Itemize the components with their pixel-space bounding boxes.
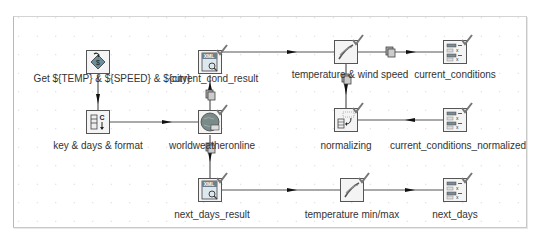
step-label: temperature min/max xyxy=(305,209,399,221)
validated-check-icon xyxy=(461,102,473,114)
step-label: key & days & format xyxy=(53,140,142,152)
step-label: current_conditions_normalized xyxy=(390,140,526,152)
svg-text:XML: XML xyxy=(204,53,215,59)
step-label: normalizing xyxy=(320,140,371,152)
step-label: next_days_result xyxy=(174,209,250,221)
svg-text:x: x xyxy=(456,47,459,53)
validated-check-icon xyxy=(216,172,228,184)
step-label: Get ${TEMP} & ${SPEED} & ${city} xyxy=(34,73,191,85)
svg-text:x: x xyxy=(456,194,459,200)
validated-check-icon xyxy=(216,104,228,116)
javascript-icon: $ xyxy=(87,51,109,73)
step-label: temperature & wind speed xyxy=(292,69,409,81)
step-label: worldweatheronline xyxy=(169,140,255,152)
generate-rows-icon: C xyxy=(87,111,109,133)
validated-check-icon xyxy=(461,34,473,46)
validated-check-icon xyxy=(358,172,370,184)
svg-text:x: x xyxy=(456,185,459,191)
svg-text:x: x xyxy=(456,124,459,130)
step-label: current_conditions xyxy=(414,69,496,81)
validated-check-icon xyxy=(352,102,364,114)
step-label: next_days xyxy=(432,209,478,221)
svg-text:C: C xyxy=(99,114,104,121)
validated-check-icon xyxy=(216,44,228,56)
svg-text:XML: XML xyxy=(204,181,215,187)
step-get-vars[interactable]: $ xyxy=(86,50,110,74)
svg-text:x: x xyxy=(456,115,459,121)
validated-check-icon xyxy=(352,34,364,46)
step-key-days-format[interactable]: C xyxy=(86,110,110,134)
svg-text:$: $ xyxy=(96,59,100,66)
svg-text:x: x xyxy=(456,56,459,62)
step-label: current_cond_result xyxy=(170,73,258,85)
validated-check-icon xyxy=(461,172,473,184)
